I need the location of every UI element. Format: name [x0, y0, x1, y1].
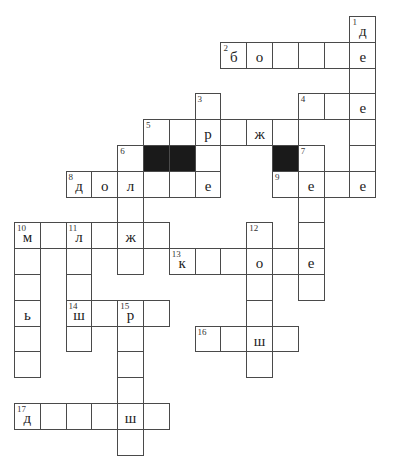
crossword-cell[interactable]: ь	[14, 300, 41, 327]
cell-letter: д	[350, 22, 375, 40]
cell-letter: е	[299, 177, 324, 195]
crossword-cell[interactable]	[324, 93, 351, 120]
crossword-cell[interactable]: е	[349, 171, 376, 198]
crossword-cell[interactable]	[91, 300, 118, 327]
crossword-cell[interactable]	[298, 42, 325, 69]
crossword-cell[interactable]: 9	[272, 171, 299, 198]
crossword-cell[interactable]: е	[349, 42, 376, 69]
cell-letter: ь	[15, 306, 40, 324]
crossword-cell[interactable]	[117, 351, 144, 378]
crossword-cell[interactable]: 14ш	[66, 300, 93, 327]
clue-number: 7	[301, 146, 306, 156]
crossword-cell[interactable]: ш	[117, 403, 144, 430]
clue-number: 9	[275, 172, 280, 182]
crossword-cell[interactable]: 16	[195, 326, 222, 353]
crossword-cell[interactable]	[66, 274, 93, 301]
crossword-cell[interactable]	[272, 42, 299, 69]
crossword-cell[interactable]	[143, 171, 170, 198]
crossword-cell[interactable]: 10м	[14, 222, 41, 249]
crossword-cell[interactable]: р	[195, 119, 222, 146]
crossword-cell[interactable]: л	[117, 171, 144, 198]
crossword-cell[interactable]	[66, 248, 93, 275]
cell-letter: е	[299, 254, 324, 272]
crossword-cell[interactable]	[66, 403, 93, 430]
crossword-cell[interactable]	[117, 429, 144, 456]
crossword-cell[interactable]	[143, 222, 170, 249]
crossword-cell[interactable]	[349, 68, 376, 95]
crossword-cell[interactable]	[324, 42, 351, 69]
crossword-cell[interactable]	[66, 326, 93, 353]
crossword-cell[interactable]: е	[298, 248, 325, 275]
crossword-cell[interactable]	[117, 197, 144, 224]
crossword-cell[interactable]	[349, 119, 376, 146]
crossword-cell[interactable]: 8д	[66, 171, 93, 198]
crossword-cell[interactable]: 7	[298, 145, 325, 172]
crossword-cell[interactable]: 1д	[349, 16, 376, 43]
crossword-cell[interactable]: ш	[246, 326, 273, 353]
crossword-cell[interactable]: 13к	[169, 248, 196, 275]
crossword-cell[interactable]	[169, 171, 196, 198]
crossword-cell[interactable]	[143, 403, 170, 430]
crossword-cell[interactable]: е	[298, 171, 325, 198]
crossword-cell[interactable]: 4	[298, 93, 325, 120]
crossword-cell[interactable]	[298, 197, 325, 224]
blocked-cell	[143, 145, 170, 172]
crossword-cell[interactable]	[349, 145, 376, 172]
crossword-cell[interactable]	[298, 274, 325, 301]
crossword-cell[interactable]	[298, 222, 325, 249]
blocked-cell	[272, 145, 299, 172]
crossword-cell[interactable]	[272, 119, 299, 146]
crossword-cell[interactable]	[169, 119, 196, 146]
cell-letter: к	[170, 254, 195, 272]
crossword-cell[interactable]	[246, 351, 273, 378]
cell-letter: о	[247, 254, 272, 272]
crossword-cell[interactable]: о	[91, 171, 118, 198]
crossword-cell[interactable]: е	[349, 93, 376, 120]
crossword-cell[interactable]	[195, 145, 222, 172]
crossword-cell[interactable]: 6	[117, 145, 144, 172]
crossword-cell[interactable]: о	[246, 42, 273, 69]
cell-letter: л	[118, 177, 143, 195]
crossword-cell[interactable]	[324, 171, 351, 198]
crossword-cell[interactable]	[91, 403, 118, 430]
crossword-cell[interactable]	[272, 248, 299, 275]
crossword-cell[interactable]: 3	[195, 93, 222, 120]
crossword-cell[interactable]: 5	[143, 119, 170, 146]
crossword-cell[interactable]: 2б	[220, 42, 247, 69]
crossword-cell[interactable]	[14, 248, 41, 275]
crossword-cell[interactable]: 12	[246, 222, 273, 249]
clue-number: 12	[249, 223, 258, 233]
crossword-cell[interactable]	[117, 326, 144, 353]
crossword-cell[interactable]: ж	[246, 119, 273, 146]
crossword-cell[interactable]	[117, 248, 144, 275]
crossword-cell[interactable]: о	[246, 248, 273, 275]
crossword-cell[interactable]: 11л	[66, 222, 93, 249]
blocked-cell	[169, 145, 196, 172]
crossword-cell[interactable]	[272, 326, 299, 353]
crossword-cell[interactable]	[195, 248, 222, 275]
crossword-cell[interactable]	[220, 326, 247, 353]
cell-letter: ш	[67, 306, 92, 324]
crossword-cell[interactable]	[14, 274, 41, 301]
crossword-cell[interactable]	[14, 351, 41, 378]
crossword-cell[interactable]	[220, 248, 247, 275]
crossword-cell[interactable]	[117, 377, 144, 404]
crossword-cell[interactable]	[91, 222, 118, 249]
crossword-cell[interactable]: ж	[117, 222, 144, 249]
cell-letter: о	[92, 177, 117, 195]
crossword-cell[interactable]	[40, 403, 67, 430]
crossword-cell[interactable]	[246, 274, 273, 301]
crossword-cell[interactable]	[143, 300, 170, 327]
clue-number: 6	[120, 146, 125, 156]
crossword-cell[interactable]: е	[195, 171, 222, 198]
crossword-cell[interactable]	[220, 119, 247, 146]
crossword-cell[interactable]: 17д	[14, 403, 41, 430]
cell-letter: е	[196, 177, 221, 195]
cell-letter: м	[15, 228, 40, 246]
crossword-cell[interactable]	[40, 222, 67, 249]
crossword-cell[interactable]	[246, 300, 273, 327]
crossword-cell[interactable]	[14, 326, 41, 353]
crossword-cell[interactable]: 15р	[117, 300, 144, 327]
cell-letter: р	[118, 306, 143, 324]
cell-letter: ш	[247, 332, 272, 350]
